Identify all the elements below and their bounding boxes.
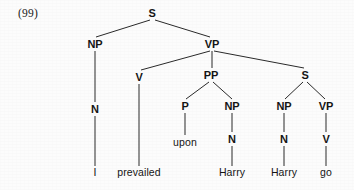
tree-node-n3: N (280, 133, 288, 145)
tree-edge-vp1-to-v1 (141, 51, 210, 70)
tree-node-s0: S (148, 7, 155, 19)
tree-node-v2: V (322, 133, 329, 145)
tree-edge-s1-to-vp2 (307, 82, 325, 99)
leaf-word-w_upo: upon (173, 136, 197, 148)
figure-canvas: (99) SNPVPNVPPSPNPNPVPNNVIprevaileduponH… (0, 0, 354, 190)
tree-node-pp1: PP (204, 69, 218, 81)
leaf-word-w_pre: prevailed (117, 166, 161, 178)
tree-edges-layer (0, 0, 354, 190)
tree-node-n1: N (91, 103, 99, 115)
tree-node-np1: NP (87, 38, 102, 50)
leaf-word-w_ha1: Harry (219, 166, 245, 178)
tree-edge-s0-to-vp1 (155, 20, 210, 37)
tree-node-v1: V (135, 71, 142, 83)
leaf-word-w_go: go (320, 166, 332, 178)
tree-node-np2: NP (224, 100, 239, 112)
tree-node-s1: S (301, 69, 308, 81)
tree-node-p1: P (181, 100, 188, 112)
tree-edge-pp1-to-np2 (213, 82, 232, 99)
tree-edge-pp1-to-p1 (186, 82, 209, 99)
tree-node-n2: N (228, 133, 236, 145)
tree-node-vp1: VP (205, 38, 219, 50)
tree-edge-s1-to-np3 (285, 82, 303, 99)
leaf-word-w_ha2: Harry (271, 166, 297, 178)
tree-node-np3: NP (276, 100, 291, 112)
tree-edge-s0-to-np1 (96, 20, 150, 37)
tree-node-vp2: VP (319, 100, 333, 112)
leaf-word-w_i: I (93, 166, 96, 178)
tree-edge-vp1-to-s1 (214, 51, 304, 68)
